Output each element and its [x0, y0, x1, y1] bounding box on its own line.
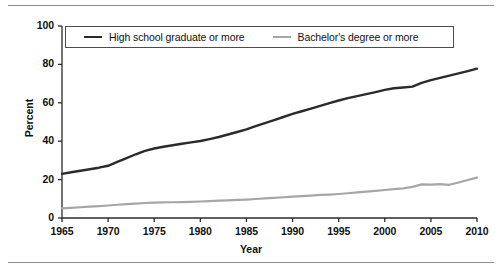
legend-item-bachelors: Bachelor's degree or more	[273, 31, 419, 43]
x-axis-tick-label: 1965	[42, 225, 82, 237]
chart-figure: 020406080100 196519701975198019851990199…	[0, 0, 502, 273]
y-axis-tick-label: 100	[18, 19, 54, 31]
x-axis-title: Year	[0, 243, 502, 255]
legend-line-swatch-icon	[273, 36, 291, 39]
legend-label-bachelors: Bachelor's degree or more	[298, 31, 419, 43]
y-axis-tick-label: 20	[18, 173, 54, 185]
y-axis-tick-label: 80	[18, 57, 54, 69]
x-axis-tick-label: 1970	[88, 225, 128, 237]
x-axis-tick-label: 1985	[226, 225, 266, 237]
x-axis-tick-label: 1995	[319, 225, 359, 237]
series-line-high-school	[62, 69, 477, 174]
x-axis-tick-label: 2005	[411, 225, 451, 237]
legend-item-high-school: High school graduate or more	[84, 31, 245, 43]
x-axis-tick-label: 1980	[180, 225, 220, 237]
series-line-bachelors	[62, 178, 477, 209]
legend-line-swatch-icon	[84, 36, 102, 39]
x-axis-tick-label: 1975	[134, 225, 174, 237]
x-axis-tick-label: 1990	[273, 225, 313, 237]
x-axis-tick-label: 2000	[365, 225, 405, 237]
legend-label-high-school: High school graduate or more	[109, 31, 245, 43]
chart-legend: High school graduate or more Bachelor's …	[65, 26, 454, 48]
y-axis-title: Percent	[23, 78, 35, 158]
y-axis-tick-label: 0	[18, 211, 54, 223]
x-axis-tick-label: 2010	[457, 225, 497, 237]
